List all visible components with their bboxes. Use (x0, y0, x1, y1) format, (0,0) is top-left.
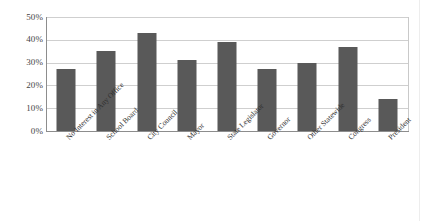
y-axis-tick-label: 30% (3, 58, 43, 67)
y-axis-tick-label: 10% (3, 104, 43, 113)
bar-slot (46, 17, 86, 131)
y-axis-tick-label: 0% (3, 127, 43, 136)
bar[interactable] (298, 63, 317, 131)
page-edge-line (419, 0, 420, 221)
bar-slot (207, 17, 247, 131)
y-axis-tick-label: 20% (3, 81, 43, 90)
plot-area (46, 17, 408, 131)
bar[interactable] (57, 69, 76, 131)
y-axis-tick-label: 40% (3, 35, 43, 44)
bar-slot (287, 17, 327, 131)
bar-chart-figure: 50%40%30%20%10%0% No Interest in Any Off… (0, 0, 432, 221)
bar[interactable] (258, 69, 277, 131)
y-axis-tick-label: 50% (3, 13, 43, 22)
bar[interactable] (338, 47, 357, 131)
figure-caption (8, 211, 258, 221)
bar[interactable] (137, 33, 156, 131)
bar-slot (368, 17, 408, 131)
bar[interactable] (217, 42, 236, 131)
bar[interactable] (177, 60, 196, 131)
plot-right-border (408, 17, 409, 132)
